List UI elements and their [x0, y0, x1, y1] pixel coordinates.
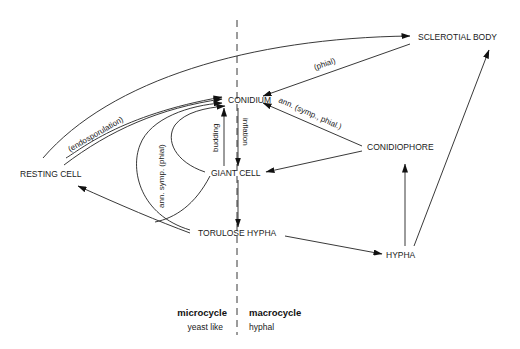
legend-hyphal: hyphal — [249, 322, 274, 332]
label-ann-symp-phial-vertical: ann. symp. (phial) — [157, 144, 166, 208]
edge-torulose-to-conidium — [137, 103, 222, 230]
legend-yeast-like: yeast like — [188, 322, 224, 332]
node-torulose-hypha: TORULOSE HYPHA — [198, 228, 277, 238]
label-budding: budding — [211, 124, 220, 152]
edge-torulose-to-hypha — [285, 236, 382, 254]
edge-resting-to-conidium-1 — [64, 99, 222, 165]
node-giant-cell: GIANT CELL — [211, 168, 261, 178]
node-hypha: HYPHA — [386, 250, 416, 260]
label-endosporulation: (endosporulation) — [67, 115, 126, 154]
legend-microcycle: microcycle — [177, 307, 227, 318]
node-conidium: CONIDIUM — [228, 95, 271, 105]
node-resting-cell: RESTING CELL — [20, 169, 82, 179]
label-inflation: inflation — [241, 118, 250, 146]
edge-torulose-to-resting — [78, 186, 190, 233]
node-conidiophore: CONIDIOPHORE — [367, 142, 434, 152]
edge-sclerotial-to-conidium — [263, 44, 410, 96]
legend-macrocycle: macrocycle — [249, 307, 301, 318]
fungal-life-cycle-diagram: SCLEROTIAL BODY CONIDIUM CONIDIOPHORE RE… — [0, 0, 520, 349]
label-phial: (phial) — [313, 56, 337, 72]
edge-conidiophore-to-giantcell — [266, 151, 362, 172]
node-sclerotial-body: SCLEROTIAL BODY — [418, 32, 497, 42]
edge-resting-to-sclerotial — [43, 36, 410, 158]
